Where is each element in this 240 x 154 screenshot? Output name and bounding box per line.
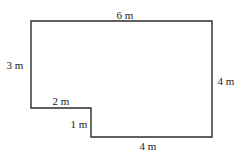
- l-shaped-outline: [31, 21, 212, 137]
- floor-plan-diagram: [0, 0, 240, 154]
- left-side-label: 3 m: [7, 59, 24, 71]
- notch-side-label: 1 m: [71, 118, 88, 130]
- right-side-label: 4 m: [218, 75, 235, 87]
- top-side-label: 6 m: [117, 9, 134, 21]
- notch-top-label: 2 m: [53, 95, 70, 107]
- bottom-side-label: 4 m: [140, 140, 157, 152]
